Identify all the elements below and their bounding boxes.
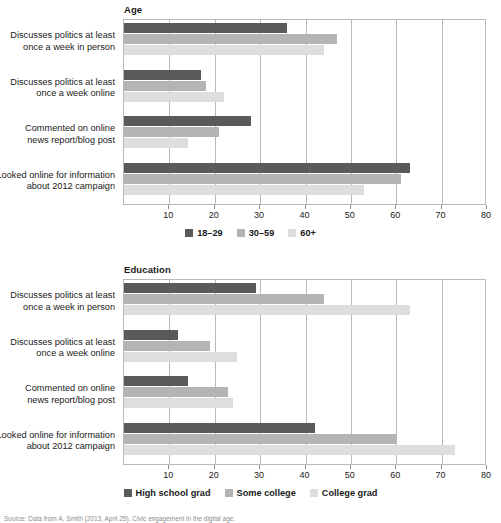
x-tick-label-50: 50 — [345, 470, 355, 480]
legend-swatch-icon — [185, 229, 193, 237]
category-label: Commented on onlinenews report/blog post — [0, 123, 115, 146]
legend-swatch-icon — [310, 489, 318, 497]
legend-item[interactable]: 30–59 — [237, 228, 275, 238]
x-tick-label-30: 30 — [254, 210, 264, 220]
category-label-line: Commented on online — [0, 383, 115, 395]
category-label-line: Discusses politics at least — [0, 77, 115, 89]
bar-group — [124, 280, 485, 327]
bar — [124, 434, 396, 444]
category-label-line: Looked online for information — [0, 170, 115, 182]
legend-label: High school grad — [136, 488, 211, 498]
x-tick-20 — [214, 465, 215, 469]
x-tick-label-10: 10 — [163, 470, 173, 480]
x-tick-80 — [486, 205, 487, 209]
legend-label: 60+ — [300, 228, 316, 238]
bar — [124, 387, 228, 397]
bar — [124, 445, 455, 455]
bar — [124, 305, 410, 315]
legend-swatch-icon — [225, 489, 233, 497]
plot-area-education — [123, 279, 486, 465]
legend-item[interactable]: High school grad — [124, 488, 211, 498]
bar — [124, 174, 401, 184]
source-note: Source: Data from A. Smith (2013, April … — [4, 515, 496, 523]
x-tick-label-50: 50 — [345, 210, 355, 220]
legend-age: 18–2930–5960+ — [0, 228, 501, 238]
x-axis-age: 1020304050607080 — [123, 205, 486, 225]
category-label-line: once a week in person — [0, 42, 115, 54]
legend-swatch-icon — [288, 229, 296, 237]
x-tick-70 — [441, 465, 442, 469]
bar — [124, 70, 201, 80]
x-tick-label-70: 70 — [436, 470, 446, 480]
category-label-line: about 2012 campaign — [0, 441, 115, 453]
bar — [124, 341, 210, 351]
legend-item[interactable]: 18–29 — [185, 228, 223, 238]
legend-label: 18–29 — [197, 228, 223, 238]
legend-label: Some college — [237, 488, 296, 498]
x-tick-60 — [395, 205, 396, 209]
bar — [124, 81, 206, 91]
x-tick-label-40: 40 — [299, 470, 309, 480]
bar-group — [124, 327, 485, 374]
x-tick-10 — [168, 205, 169, 209]
bar-group — [124, 160, 485, 207]
x-tick-label-10: 10 — [163, 210, 173, 220]
bar — [124, 185, 364, 195]
category-label-line: once a week online — [0, 88, 115, 100]
x-tick-20 — [214, 205, 215, 209]
x-tick-label-30: 30 — [254, 470, 264, 480]
x-tick-50 — [350, 205, 351, 209]
bar — [124, 138, 188, 148]
x-tick-30 — [259, 205, 260, 209]
category-label: Discusses politics at leastonce a week i… — [0, 290, 115, 313]
bar-group — [124, 67, 485, 114]
chart-panel-education: Education 1020304050607080 High school g… — [0, 260, 501, 518]
x-tick-70 — [441, 205, 442, 209]
bar — [124, 294, 324, 304]
bar-group — [124, 373, 485, 420]
bar — [124, 127, 219, 137]
x-tick-30 — [259, 465, 260, 469]
legend-label: College grad — [322, 488, 378, 498]
category-label-line: Looked online for information — [0, 430, 115, 442]
x-tick-label-60: 60 — [390, 210, 400, 220]
category-label: Looked online for informationabout 2012 … — [0, 430, 115, 453]
category-label-line: Commented on online — [0, 123, 115, 135]
legend-item[interactable]: Some college — [225, 488, 296, 498]
bar — [124, 376, 188, 386]
x-tick-label-80: 80 — [481, 210, 491, 220]
bar-group — [124, 113, 485, 160]
bar-group — [124, 420, 485, 467]
category-label-line: Discusses politics at least — [0, 30, 115, 42]
bar — [124, 283, 256, 293]
bar — [124, 423, 315, 433]
category-label-line: once a week in person — [0, 302, 115, 314]
x-tick-60 — [395, 465, 396, 469]
category-label-line: news report/blog post — [0, 135, 115, 147]
x-tick-label-60: 60 — [390, 470, 400, 480]
legend-item[interactable]: 60+ — [288, 228, 316, 238]
category-label: Commented on onlinenews report/blog post — [0, 383, 115, 406]
x-tick-label-80: 80 — [481, 470, 491, 480]
bar-group — [124, 20, 485, 67]
x-tick-50 — [350, 465, 351, 469]
category-label: Discusses politics at leastonce a week o… — [0, 77, 115, 100]
chart-title-education: Education — [124, 264, 171, 275]
legend-item[interactable]: College grad — [310, 488, 378, 498]
bar — [124, 352, 237, 362]
category-label: Discusses politics at leastonce a week i… — [0, 30, 115, 53]
x-tick-label-20: 20 — [209, 470, 219, 480]
bar — [124, 34, 337, 44]
bar — [124, 163, 410, 173]
legend-swatch-icon — [237, 229, 245, 237]
category-label: Looked online for informationabout 2012 … — [0, 170, 115, 193]
category-label-line: about 2012 campaign — [0, 181, 115, 193]
x-tick-label-70: 70 — [436, 210, 446, 220]
bar — [124, 330, 178, 340]
chart-title-age: Age — [124, 4, 142, 15]
x-axis-education: 1020304050607080 — [123, 465, 486, 485]
category-label-line: Discusses politics at least — [0, 290, 115, 302]
category-label-line: news report/blog post — [0, 395, 115, 407]
category-label-line: once a week online — [0, 348, 115, 360]
x-tick-label-40: 40 — [299, 210, 309, 220]
